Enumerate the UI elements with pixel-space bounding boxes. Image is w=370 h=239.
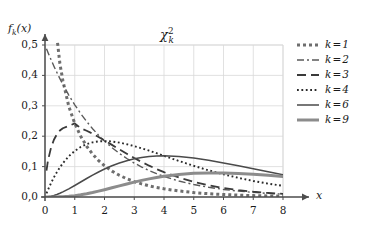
chart-canvas — [0, 0, 370, 239]
y-tick-label: 0,2 — [21, 129, 38, 141]
x-tick-label: 7 — [250, 204, 257, 216]
plot-title: χ2k — [160, 26, 174, 45]
x-tick-label: 2 — [101, 204, 108, 216]
x-tick-label: 3 — [131, 204, 138, 216]
chi-squared-pdf-figure: 0123456780,00,10,20,30,40,5fk(x)xχ2kk = … — [0, 0, 370, 239]
legend-label-5: k = 9 — [325, 113, 349, 125]
curve-k-1 — [46, 27, 283, 196]
x-tick-label: 0 — [42, 204, 49, 216]
x-axis-label: x — [316, 189, 322, 202]
y-axis-label: fk(x) — [8, 22, 31, 37]
legend-label-4: k = 6 — [325, 98, 349, 110]
x-tick-label: 4 — [161, 204, 168, 216]
y-tick-label: 0,5 — [21, 38, 38, 50]
y-axis-arrow — [42, 34, 49, 41]
data-curves — [46, 27, 283, 197]
x-tick-label: 8 — [280, 204, 287, 216]
legend-label-3: k = 4 — [325, 83, 349, 95]
x-axis-arrow — [302, 194, 309, 201]
x-tick-label: 1 — [71, 204, 78, 216]
legend-label-1: k = 2 — [325, 53, 349, 65]
x-tick-label: 6 — [220, 204, 227, 216]
legend-label-0: k = 1 — [325, 38, 349, 50]
y-tick-label: 0,1 — [21, 160, 38, 172]
curve-k-9 — [46, 173, 283, 197]
curve-k-3 — [46, 123, 283, 193]
legend — [297, 45, 319, 120]
y-tick-label: 0,4 — [21, 68, 38, 80]
y-tick-label: 0,3 — [21, 99, 38, 111]
legend-label-2: k = 3 — [325, 68, 349, 80]
y-tick-label: 0,0 — [21, 190, 38, 202]
x-tick-label: 5 — [190, 204, 197, 216]
